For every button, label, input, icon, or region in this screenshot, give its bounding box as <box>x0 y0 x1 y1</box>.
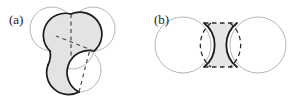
panel-a: (a) <box>0 0 148 96</box>
panel-a-label: (a) <box>9 13 23 26</box>
figure-container: (a) (b) <box>0 0 295 96</box>
panel-b-label: (b) <box>154 13 169 26</box>
right-circle <box>230 17 286 73</box>
panel-b: (b) <box>148 0 295 96</box>
panel-b-diagram <box>148 0 295 96</box>
